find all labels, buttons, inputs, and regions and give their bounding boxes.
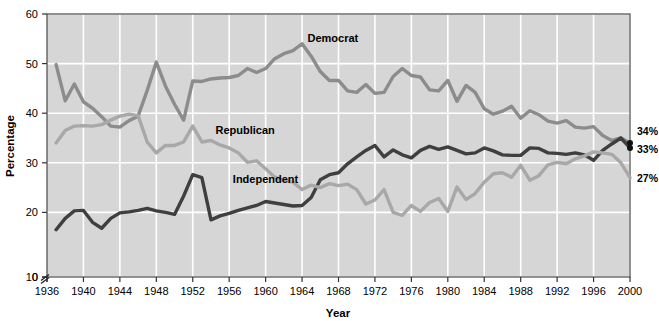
series-label-democrat: Democrat bbox=[308, 32, 359, 44]
x-tick-label-1996: 1996 bbox=[581, 285, 605, 297]
x-tick-label-1948: 1948 bbox=[144, 285, 168, 297]
chart-container: 0102030405060 19361940194419481952195619… bbox=[0, 0, 659, 321]
x-tick-label-1980: 1980 bbox=[436, 285, 460, 297]
end-label-independent: 33% bbox=[637, 143, 659, 155]
end-label-republican: 27% bbox=[637, 172, 659, 184]
x-tick-label-1976: 1976 bbox=[399, 285, 423, 297]
series-end-value-labels: 34%33%27% bbox=[637, 125, 659, 184]
x-tick-label-1936: 1936 bbox=[35, 285, 59, 297]
x-tick-label-1988: 1988 bbox=[508, 285, 532, 297]
x-tick-label-1956: 1956 bbox=[217, 285, 241, 297]
y-tick-label-20: 20 bbox=[26, 206, 38, 218]
y-tick-label-60: 60 bbox=[26, 8, 38, 20]
x-tick-label-1964: 1964 bbox=[290, 285, 314, 297]
x-axis-title: Year bbox=[326, 307, 351, 319]
x-tick-label-1968: 1968 bbox=[326, 285, 350, 297]
x-tick-label-1952: 1952 bbox=[181, 285, 205, 297]
series-label-independent: Independent bbox=[233, 173, 299, 185]
x-tick-label-2000: 2000 bbox=[618, 285, 642, 297]
x-tick-label-1992: 1992 bbox=[545, 285, 569, 297]
x-tick-label-1972: 1972 bbox=[363, 285, 387, 297]
endpoint-marker-independent bbox=[627, 145, 633, 151]
x-tick-label-1940: 1940 bbox=[71, 285, 95, 297]
series-label-republican: Republican bbox=[216, 124, 276, 136]
x-tick-label-1944: 1944 bbox=[108, 285, 132, 297]
y-tick-label-50: 50 bbox=[26, 58, 38, 70]
end-label-democrat: 34% bbox=[637, 125, 659, 137]
y-tick-label-40: 40 bbox=[26, 107, 38, 119]
x-tick-label-1960: 1960 bbox=[253, 285, 277, 297]
y-axis-title: Percentage bbox=[4, 115, 16, 177]
y-tick-label-30: 30 bbox=[26, 157, 38, 169]
x-tick-label-1984: 1984 bbox=[472, 285, 496, 297]
x-axis-tick-labels: 1936194019441948195219561960196419681972… bbox=[35, 285, 642, 297]
line-chart: 0102030405060 19361940194419481952195619… bbox=[0, 0, 659, 321]
y-tick-label-10: 10 bbox=[26, 271, 38, 283]
